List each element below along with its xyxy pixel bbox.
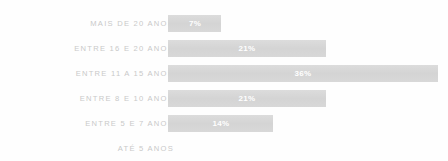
chart-row: ENTRE 16 E 20 ANOS 21% bbox=[0, 36, 448, 61]
bar-value-label: 14% bbox=[213, 115, 230, 132]
bar-track: 21% bbox=[168, 86, 448, 111]
chart-row: ATÉ 5 ANOS bbox=[0, 136, 448, 161]
chart-row: ENTRE 8 E 10 ANOS 21% bbox=[0, 86, 448, 111]
bar-track bbox=[168, 136, 448, 161]
bar-value-label: 21% bbox=[239, 90, 256, 107]
chart-row: ENTRE 11 A 15 ANOS 36% bbox=[0, 61, 448, 86]
bar-track: 36% bbox=[168, 61, 448, 86]
bar-track: 7% bbox=[168, 11, 448, 36]
bar-value-label: 36% bbox=[295, 65, 312, 82]
chart-row: MAIS DE 20 ANOS 7% bbox=[0, 11, 448, 36]
chart-row: ENTRE 5 E 7 ANOS 14% bbox=[0, 111, 448, 136]
bar-track: 21% bbox=[168, 36, 448, 61]
bar-value-label: 7% bbox=[189, 15, 201, 32]
plot-area: MAIS DE 20 ANOS 7% ENTRE 16 E 20 ANOS 21… bbox=[0, 11, 448, 161]
category-label: ENTRE 5 E 7 ANOS bbox=[85, 111, 174, 136]
category-label: ENTRE 8 E 10 ANOS bbox=[80, 86, 174, 111]
bar-track: 14% bbox=[168, 111, 448, 136]
category-label: MAIS DE 20 ANOS bbox=[90, 11, 174, 36]
category-label: ENTRE 11 A 15 ANOS bbox=[76, 61, 174, 86]
bar-chart: MAIS DE 20 ANOS 7% ENTRE 16 E 20 ANOS 21… bbox=[0, 0, 448, 161]
bar-value-label: 21% bbox=[239, 40, 256, 57]
category-label: ATÉ 5 ANOS bbox=[118, 136, 174, 161]
category-label: ENTRE 16 E 20 ANOS bbox=[74, 36, 174, 61]
